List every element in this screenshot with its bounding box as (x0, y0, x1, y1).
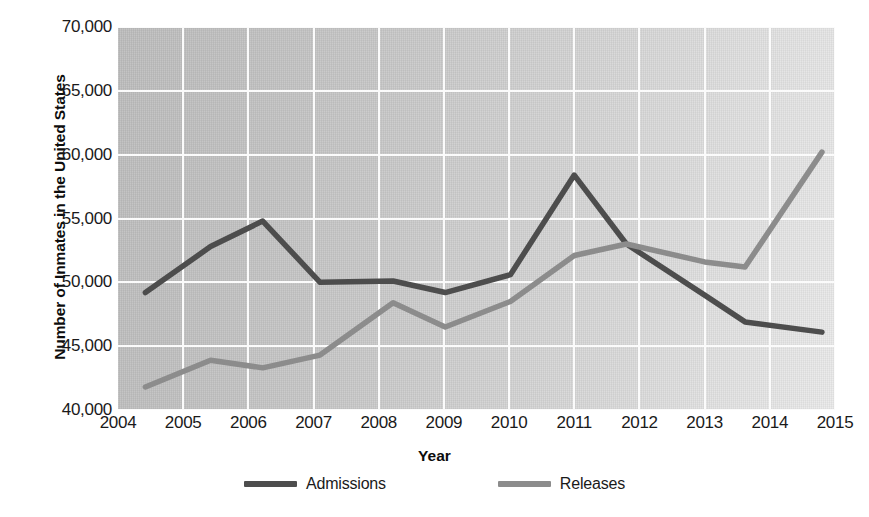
series-line-admissions (145, 175, 822, 332)
x-tick-label: 2015 (795, 414, 869, 433)
series-lines (118, 27, 835, 410)
chart-legend: AdmissionsReleases (0, 476, 869, 492)
legend-item-admissions[interactable]: Admissions (244, 476, 386, 492)
legend-label: Releases (560, 476, 625, 492)
x-axis-title: Year (0, 447, 869, 465)
legend-label: Admissions (306, 476, 386, 492)
legend-swatch-icon (498, 481, 551, 487)
y-tick-label: 60,000 (0, 146, 112, 163)
y-tick-label: 50,000 (0, 273, 112, 290)
series-line-releases (145, 152, 822, 387)
legend-swatch-icon (244, 481, 297, 487)
legend-item-releases[interactable]: Releases (498, 476, 625, 492)
y-tick-label: 70,000 (0, 18, 112, 35)
plot-area (118, 27, 835, 410)
y-tick-label: 65,000 (0, 82, 112, 99)
y-tick-label: 55,000 (0, 210, 112, 227)
x-axis-tick-labels: 2004200520062007200820092010201120122013… (0, 414, 869, 440)
y-tick-label: 45,000 (0, 337, 112, 354)
line-chart-figure: Number of Inmates in the United States 4… (0, 0, 869, 517)
